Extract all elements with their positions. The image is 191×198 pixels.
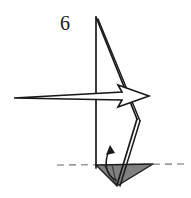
step-number-label: 6 [60,12,70,34]
origami-diagram-svg: 6 [0,0,191,198]
origami-diagram-container: 6 [0,0,191,198]
